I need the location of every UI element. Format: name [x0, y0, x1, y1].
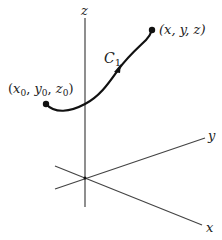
- curve-c1: [46, 30, 152, 111]
- start-point-label: (x0, y0, z0): [8, 81, 73, 98]
- x-axis: [55, 166, 202, 225]
- x-axis-label: x: [206, 220, 214, 235]
- y-axis: [55, 138, 205, 189]
- end-point-label: (x, y, z): [159, 22, 205, 37]
- origin-point: [84, 177, 87, 180]
- curve-label: C1: [104, 50, 121, 68]
- diagram-canvas: z y x C1 (x, y, z) (x0, y0, z0): [0, 0, 222, 240]
- start-point: [43, 101, 49, 107]
- z-axis-label: z: [80, 3, 88, 18]
- y-axis-label: y: [207, 128, 216, 143]
- end-point: [149, 27, 155, 33]
